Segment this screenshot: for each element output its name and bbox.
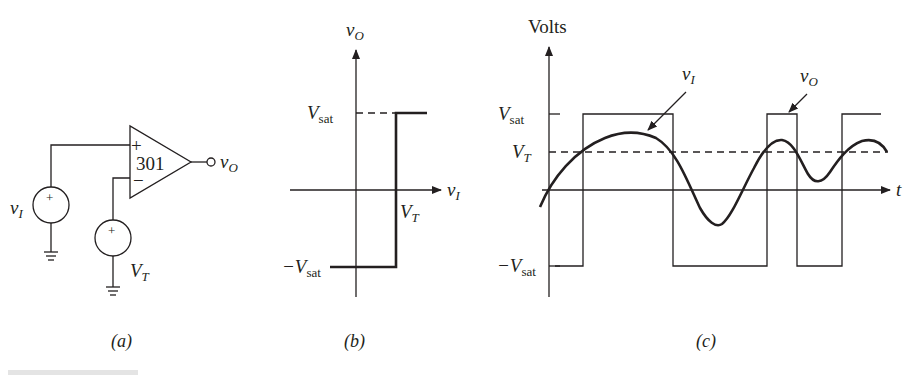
vo-callout-arrow (789, 94, 807, 112)
vt-source-polarity: + (108, 223, 115, 238)
panel-a-circuit: 301 + − vO + vI + VT (a) (10, 126, 238, 352)
vt-source-label: VT (130, 260, 150, 284)
output-label: vO (220, 151, 238, 175)
output-terminal (207, 158, 215, 166)
panel-c-waveforms: Volts t Vsat VT −Vsat vI vO (c) (497, 16, 902, 352)
panel-b-transfer-curve: vO vI Vsat −Vsat VT (b) (282, 19, 460, 352)
neg-vsat-label: −Vsat (282, 256, 321, 280)
noninverting-input-sign: + (131, 135, 142, 156)
vo-callout-label: vO (800, 65, 818, 89)
neg-vsat-label: −Vsat (497, 255, 536, 279)
ground-icon (106, 287, 120, 295)
vt-label: VT (512, 141, 532, 165)
panel-b-caption: (b) (344, 331, 365, 352)
vi-waveform (540, 133, 887, 225)
vi-source-polarity: + (46, 190, 53, 205)
comparator-figure: 301 + − vO + vI + VT (a) (0, 0, 910, 375)
vi-axis-label: vI (447, 179, 460, 203)
panel-a-caption: (a) (111, 331, 132, 352)
time-axis-label: t (896, 179, 902, 200)
vsat-label: Vsat (307, 102, 333, 126)
volts-axis-title: Volts (528, 16, 567, 37)
vo-axis-label: vO (346, 19, 364, 43)
vi-callout-arrow (648, 92, 686, 130)
ground-icon (44, 252, 58, 260)
vsat-label: Vsat (498, 103, 524, 127)
vi-source-label: vI (10, 197, 23, 221)
panel-c-caption: (c) (696, 331, 716, 352)
inverting-input-sign: − (133, 170, 144, 191)
cropped-figure-caption (8, 370, 138, 375)
vi-callout-label: vI (682, 63, 695, 87)
vt-label: VT (400, 201, 420, 225)
